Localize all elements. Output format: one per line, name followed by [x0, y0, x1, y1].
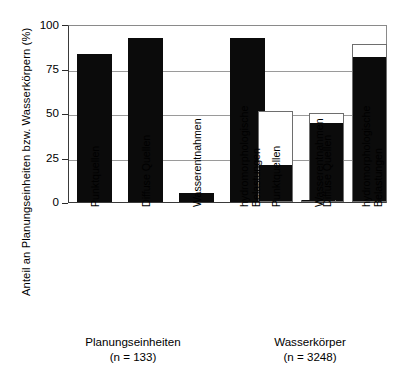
x-label-text: Wasserentnahmen [192, 118, 204, 207]
x-label-line2: Belastungen [372, 106, 384, 207]
x-label-text-two-line: hydromorphologische Belastungen [360, 106, 384, 207]
x-label-text: Punktquellen [271, 146, 283, 207]
y-tick-label-25: 25 [46, 152, 59, 164]
group-label-n: (n = 3248) [215, 349, 403, 364]
y-tick-label-50: 50 [46, 107, 59, 119]
x-label-text: Wasserentnahmen [314, 118, 326, 207]
x-label-text: Punktquellen [90, 146, 102, 207]
y-axis-label: Anteil an Planungseinheiten bzw. Wasserk… [20, 28, 32, 296]
group-label-n: (n = 133) [38, 349, 228, 364]
plot-area [68, 25, 387, 203]
group-label-wasserkoerper: Wasserkörper (n = 3248) [215, 334, 403, 364]
y-tick-label-100: 100 [40, 19, 59, 31]
group-label-name: Planungseinheiten [38, 334, 228, 349]
y-tick-mark-0 [62, 203, 68, 204]
x-label-line1: hydromorphologische [360, 106, 372, 207]
group-label-name: Wasserkörper [215, 334, 403, 349]
y-tick-label-0: 0 [53, 196, 59, 208]
x-label-text-two-line: hydromorphologische Belastungen [238, 106, 262, 207]
y-axis-label-wrap: Anteil an Planungseinheiten bzw. Wasserk… [0, 0, 26, 300]
x-label-line2: Belastungen [250, 106, 262, 207]
x-label-text: Diffuse Quellen [141, 135, 153, 207]
x-label-line1: hydromorphologische [238, 106, 250, 207]
group-label-planungseinheiten: Planungseinheiten (n = 133) [38, 334, 228, 364]
y-tick-label-75: 75 [46, 63, 59, 75]
chart-figure: Anteil an Planungseinheiten bzw. Wasserk… [0, 0, 403, 383]
